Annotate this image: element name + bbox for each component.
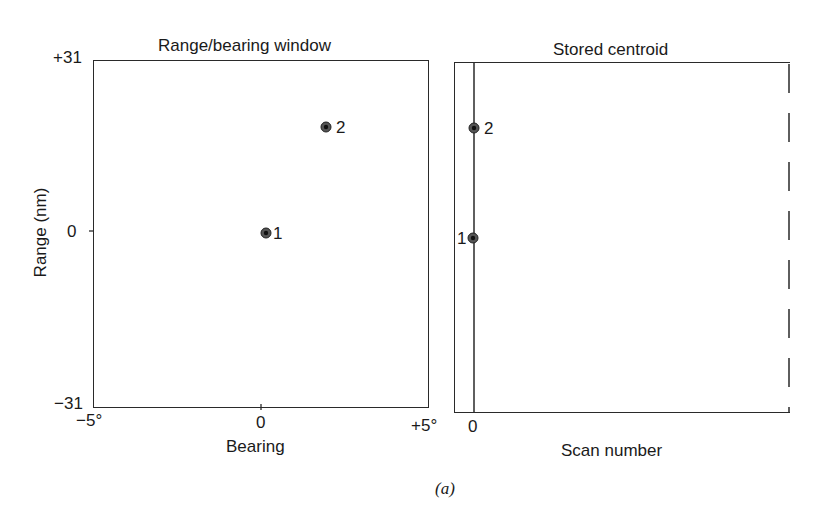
right-point-1 <box>468 233 478 243</box>
right-point-2-label: 2 <box>484 120 493 137</box>
right-point-2 <box>469 123 479 133</box>
left-point-1-label: 1 <box>273 225 282 242</box>
left-point-2-label: 2 <box>336 119 345 136</box>
right-point-1-label: 1 <box>457 230 466 247</box>
plot-graphics <box>0 0 821 529</box>
left-point-1 <box>261 228 271 238</box>
left-point-2 <box>321 122 331 132</box>
